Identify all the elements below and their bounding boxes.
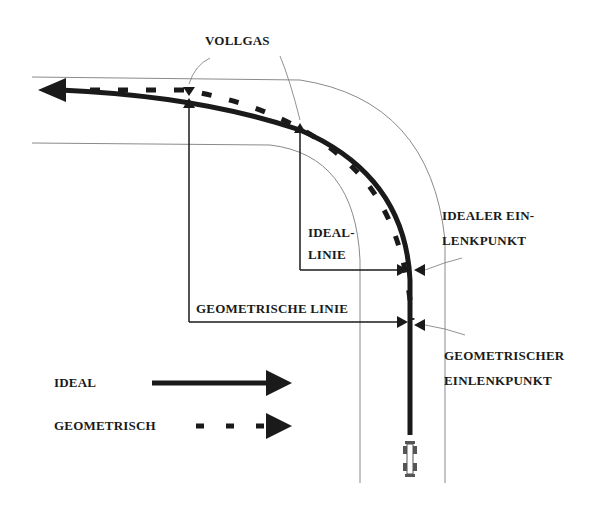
label-geometrischer-einlenkpunkt-2: EINLENKPUNKT (444, 370, 552, 392)
label-ideal-linie-1: IDEAL- (308, 222, 355, 244)
legend-geometric-arrowhead (266, 413, 292, 439)
label-idealer-einlenkpunkt-2: LENKPUNKT (442, 230, 526, 252)
label-geometrische-linie: GEOMETRISCHE LINIE (196, 298, 348, 320)
ideal-turnin-arrow (414, 264, 425, 276)
vollgas-marker-geometric (183, 87, 195, 96)
legend-ideal-arrowhead (266, 370, 292, 396)
ideal-line-arrowhead (38, 78, 66, 102)
label-ideal-linie-2: LINIE (308, 244, 346, 266)
legend-label-ideal: IDEAL (54, 372, 96, 394)
race-car-icon (403, 441, 417, 477)
label-geometrischer-einlenkpunkt-1: GEOMETRISCHER (444, 345, 564, 367)
label-vollgas: VOLLGAS (205, 30, 270, 52)
geometric-line (90, 90, 412, 320)
legend-label-geometrisch: GEOMETRISCH (54, 415, 156, 437)
geometric-turnin-arrow (414, 319, 425, 331)
label-idealer-einlenkpunkt-1: IDEALER EIN- (442, 205, 534, 227)
